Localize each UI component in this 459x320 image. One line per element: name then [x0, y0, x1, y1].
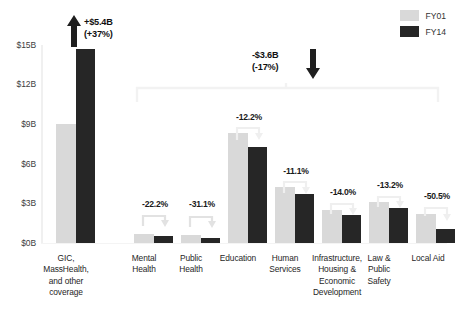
x-label-mental: Mental Health	[119, 253, 169, 276]
x-label-education: Education	[210, 253, 266, 264]
x-label-public: Public Health	[166, 253, 216, 276]
bar-public-fy14[interactable]	[201, 238, 220, 243]
x-label-local: Local Aid	[402, 253, 454, 264]
decline-arrow-mental-icon	[140, 212, 172, 228]
bar-gic-fy14[interactable]	[76, 49, 95, 243]
y-tick-3b: $3B	[2, 198, 36, 208]
legend-swatch-fy14	[400, 26, 419, 37]
callout-decline-line2: (-17%)	[252, 62, 278, 72]
bar-infra-fy14[interactable]	[342, 215, 361, 243]
legend-swatch-fy01	[400, 10, 419, 21]
callout-decline: -$3.6B(-17%)	[252, 50, 278, 73]
bar-group-gic	[56, 49, 95, 243]
decline-arrow-human-icon	[281, 178, 313, 195]
y-tick-9b: $9B	[2, 119, 36, 129]
decline-arrow-public-icon	[187, 213, 219, 229]
decline-arrow-infra-icon	[328, 200, 360, 216]
bar-human-fy01[interactable]	[275, 187, 295, 243]
callout-growth: +$5.4B(+37%)	[84, 17, 113, 40]
data-label-law: -13.2%	[357, 180, 423, 190]
decline-arrow-education-icon	[234, 124, 266, 142]
bar-mental-fy01[interactable]	[134, 234, 154, 243]
bar-public-fy01[interactable]	[181, 235, 201, 243]
bar-law-fy14[interactable]	[389, 208, 408, 243]
bar-group-public	[181, 235, 220, 243]
data-label-human: -11.1%	[263, 166, 329, 176]
callout-growth-line2: (+37%)	[84, 29, 113, 39]
bar-local-fy14[interactable]	[436, 229, 455, 243]
x-axis-baseline	[41, 243, 447, 244]
decline-arrow-local-icon	[422, 204, 454, 222]
bar-education-fy14[interactable]	[248, 147, 267, 243]
x-label-gic: GIC, MassHealth, and other coverage	[30, 253, 102, 299]
callout-growth-line1: +$5.4B	[84, 17, 113, 27]
bar-group-mental	[134, 234, 173, 243]
decline-arrow-law-icon	[375, 193, 407, 209]
legend-item-fy14[interactable]: FY14	[400, 26, 446, 37]
decline-bracket	[135, 82, 440, 104]
data-label-public: -31.1%	[169, 199, 235, 209]
y-tick-12b: $12B	[2, 79, 36, 89]
bar-mental-fy14[interactable]	[154, 236, 173, 243]
bar-gic-fy01[interactable]	[56, 124, 76, 243]
bar-group-education	[228, 133, 267, 243]
bar-human-fy14[interactable]	[295, 194, 314, 243]
y-axis-line	[41, 45, 43, 244]
down-arrow-icon	[305, 48, 321, 80]
bar-education-fy01[interactable]	[228, 133, 248, 243]
legend-label-fy14: FY14	[425, 27, 446, 37]
y-tick-0b: $0B	[2, 238, 36, 248]
legend: FY01 FY14	[400, 10, 446, 42]
x-label-law: Law & Public Safety	[356, 253, 402, 287]
up-arrow-icon	[66, 14, 82, 48]
data-label-education: -12.2%	[216, 112, 282, 122]
legend-item-fy01[interactable]: FY01	[400, 10, 446, 21]
x-label-human: Human Services	[260, 253, 310, 276]
bar-group-human	[275, 187, 314, 243]
y-tick-6b: $6B	[2, 159, 36, 169]
callout-decline-line1: -$3.6B	[252, 50, 278, 60]
y-tick-15b: $15B	[2, 40, 36, 50]
legend-label-fy01: FY01	[425, 11, 446, 21]
data-label-local: -50.5%	[404, 191, 459, 201]
